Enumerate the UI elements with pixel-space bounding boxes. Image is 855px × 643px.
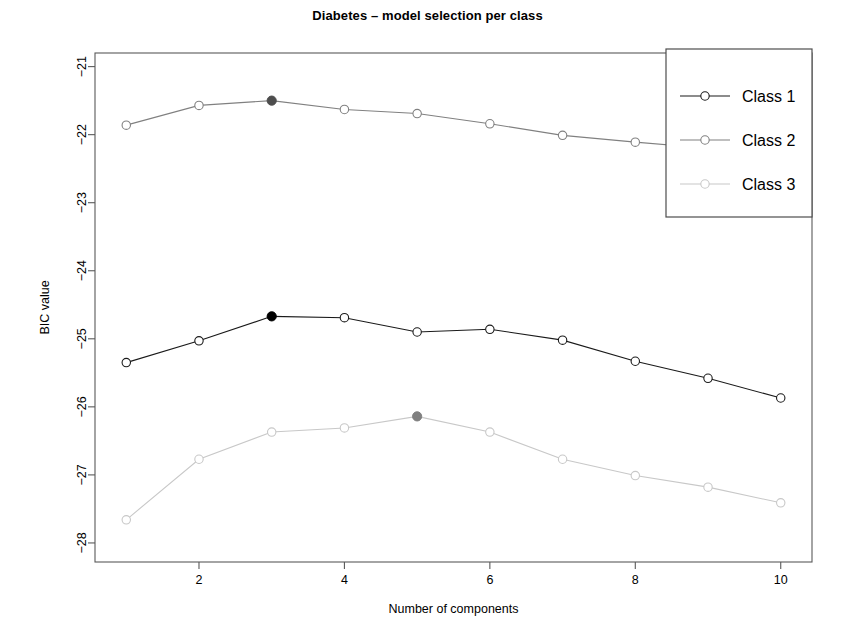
data-point-marker — [704, 374, 712, 382]
y-axis-tick-label: −23 — [75, 192, 89, 213]
x-axis-tick-label: 8 — [632, 573, 639, 587]
data-point-marker — [340, 314, 348, 322]
data-point-marker — [558, 455, 566, 463]
y-axis-tick-label: −25 — [75, 328, 89, 349]
y-axis-tick-label: −27 — [75, 464, 89, 485]
y-axis-tick-label: −28 — [75, 532, 89, 553]
data-point-marker — [122, 516, 130, 524]
y-axis-title: BIC value — [38, 280, 52, 334]
y-axis-tick-label: −22 — [75, 124, 89, 145]
data-point-marker — [268, 428, 276, 436]
data-point-marker — [195, 455, 203, 463]
data-point-marker — [195, 101, 203, 109]
legend-marker-class-2 — [701, 136, 709, 144]
legend-label-class-1: Class 1 — [742, 88, 795, 105]
data-point-marker — [631, 357, 639, 365]
data-point-marker — [777, 394, 785, 402]
chart-figure: Diabetes – model selection per class −21… — [0, 0, 855, 643]
data-point-marker — [486, 120, 494, 128]
data-point-marker — [631, 471, 639, 479]
selected-model-marker-class-2 — [267, 96, 276, 105]
x-axis-tick-label: 6 — [486, 573, 493, 587]
line-chart-plot: −21−22−23−24−25−26−27−28BIC value246810N… — [0, 0, 855, 643]
y-axis-tick-label: −24 — [75, 260, 89, 281]
data-point-marker — [122, 121, 130, 129]
data-point-marker — [413, 328, 421, 336]
data-point-marker — [558, 336, 566, 344]
data-point-marker — [340, 105, 348, 113]
selected-model-marker-class-1 — [267, 312, 276, 321]
data-point-marker — [486, 428, 494, 436]
data-point-marker — [122, 358, 130, 366]
x-axis-tick-label: 2 — [196, 573, 203, 587]
x-axis-tick-label: 4 — [341, 573, 348, 587]
x-axis-tick-label: 10 — [774, 573, 788, 587]
data-point-marker — [704, 483, 712, 491]
legend-label-class-2: Class 2 — [742, 132, 795, 149]
data-point-marker — [340, 424, 348, 432]
data-point-marker — [558, 131, 566, 139]
legend-marker-class-3 — [701, 180, 709, 188]
data-point-marker — [195, 337, 203, 345]
x-axis-title: Number of components — [389, 602, 519, 616]
series-line-class-1 — [126, 316, 780, 398]
data-point-marker — [413, 109, 421, 117]
y-axis-tick-label: −21 — [75, 56, 89, 77]
legend-label-class-3: Class 3 — [742, 176, 795, 193]
data-point-marker — [486, 325, 494, 333]
selected-model-marker-class-3 — [413, 412, 422, 421]
data-point-marker — [777, 499, 785, 507]
data-point-marker — [631, 138, 639, 146]
y-axis-tick-label: −26 — [75, 396, 89, 417]
legend-marker-class-1 — [701, 92, 709, 100]
series-line-class-3 — [126, 416, 780, 519]
